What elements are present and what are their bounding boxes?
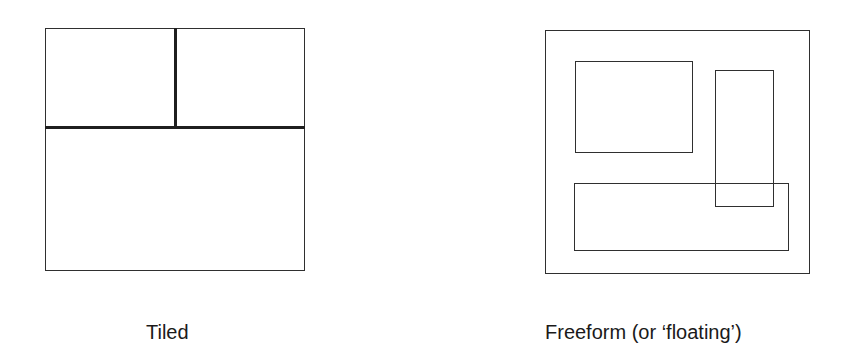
window-tall-right — [715, 70, 774, 207]
freeform-caption: Freeform (or ‘floating’) — [545, 321, 742, 344]
window-top-left — [575, 61, 693, 153]
tiled-vertical-divider — [174, 28, 177, 127]
tiled-caption: Tiled — [146, 321, 189, 344]
